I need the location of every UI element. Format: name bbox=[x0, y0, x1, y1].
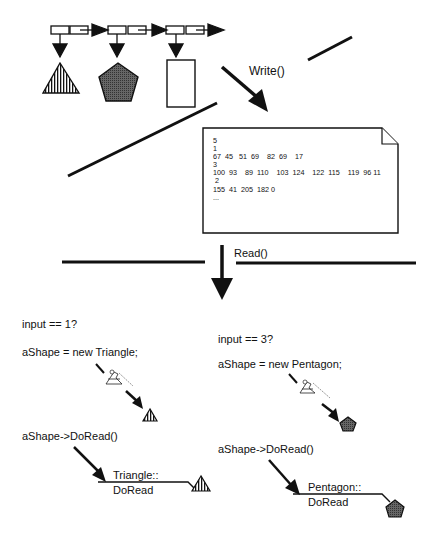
list-node-data-cell bbox=[51, 26, 69, 34]
separator-line-upper-right bbox=[308, 37, 352, 60]
create-arrow-right bbox=[322, 404, 339, 422]
file-line: 100 93 89 110 103 124 122 115 119 96 11 bbox=[213, 169, 381, 177]
method-name-left-2: DoRead bbox=[113, 484, 153, 496]
factory-figure-left bbox=[96, 364, 133, 386]
method-name-right-1: Pentagon:: bbox=[308, 481, 361, 493]
factory-figure-right bbox=[289, 374, 330, 398]
read-label: Read() bbox=[234, 247, 268, 259]
new-triangle-icon-left bbox=[143, 409, 157, 421]
call-left: aShape->DoRead() bbox=[22, 430, 118, 442]
method-name-left-1: Triangle:: bbox=[113, 469, 158, 481]
read-arrow bbox=[211, 245, 233, 300]
file-line: 5 bbox=[213, 137, 381, 145]
new-pentagon-icon-right bbox=[340, 417, 356, 431]
condition-left: input == 1? bbox=[22, 318, 77, 330]
pentagon-shape bbox=[99, 63, 138, 101]
write-label: Write() bbox=[249, 65, 285, 77]
triangle-shape bbox=[43, 63, 79, 93]
file-contents: 5167 45 51 69 82 69 173100 93 89 110 103… bbox=[213, 137, 381, 202]
call-arrow-left bbox=[74, 447, 106, 482]
create-arrow-left bbox=[126, 391, 143, 409]
pentagon-icon-right bbox=[386, 500, 404, 517]
triangle-icon-left bbox=[192, 476, 210, 491]
call-arrow-right bbox=[269, 460, 300, 495]
linked-list bbox=[51, 26, 204, 34]
file-line: ... bbox=[213, 194, 381, 202]
statement-left: aShape = new Triangle; bbox=[22, 346, 138, 358]
list-down-arrows bbox=[53, 34, 183, 57]
separator-line-upper-left bbox=[68, 103, 217, 176]
condition-right: input == 3? bbox=[218, 333, 273, 345]
method-name-right-2: DoRead bbox=[308, 496, 348, 508]
file-line: 155 41 205 182 0 bbox=[213, 186, 381, 194]
diagram-canvas bbox=[0, 0, 436, 538]
file-line: 67 45 51 69 82 69 17 bbox=[213, 153, 381, 161]
statement-right: aShape = new Pentagon; bbox=[218, 358, 342, 370]
rectangle-shape bbox=[167, 60, 195, 107]
call-right: aShape->DoRead() bbox=[218, 443, 314, 455]
